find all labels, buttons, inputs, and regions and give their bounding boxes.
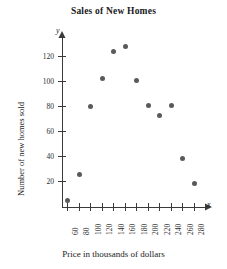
x-tick-label: 100 — [94, 224, 103, 235]
y-tick-label: 60 — [28, 127, 54, 136]
x-tick-label: 120 — [105, 224, 114, 235]
x-tick-label: 220 — [163, 224, 172, 235]
y-tick-label: 100 — [28, 77, 54, 86]
x-tick-label: 160 — [128, 224, 137, 235]
y-tick-label: 40 — [28, 152, 54, 161]
x-tick-label: 140 — [117, 224, 126, 235]
x-axis-title: Price in thousands of dollars — [0, 249, 227, 259]
plot-area: 20406080100120 6080100120140160180200220… — [0, 0, 227, 269]
x-tick-label: 180 — [140, 224, 149, 235]
y-axis-title: Number of new homes sold — [16, 102, 26, 196]
data-point — [192, 181, 197, 186]
data-point — [169, 103, 174, 108]
y-axis-letter: y — [56, 26, 60, 35]
data-point — [77, 172, 82, 177]
scatter-plot-figure: Sales of New Homes 20406080100120 608010… — [0, 0, 227, 269]
x-tick-label: 240 — [174, 224, 183, 235]
y-tick-label: 20 — [28, 177, 54, 186]
x-axis-letter: x — [207, 200, 211, 209]
data-point — [123, 44, 128, 49]
x-tick-label: 280 — [197, 224, 206, 235]
y-tick-label: 80 — [28, 102, 54, 111]
x-tick-label: 200 — [151, 224, 160, 235]
data-point — [180, 156, 185, 161]
x-tick-label: 80 — [82, 228, 91, 236]
y-tick-label: 120 — [28, 52, 54, 61]
x-tick-label: 60 — [71, 228, 80, 236]
x-tick-label: 260 — [186, 224, 195, 235]
data-point — [146, 103, 151, 108]
data-point — [100, 76, 105, 81]
